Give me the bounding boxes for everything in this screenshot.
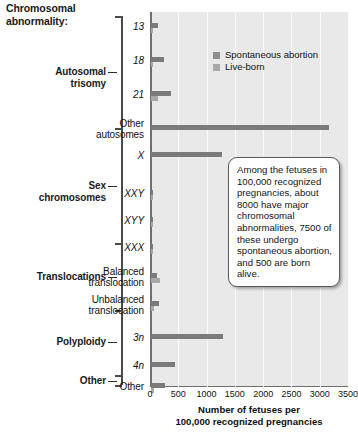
legend-item: Live-born xyxy=(213,61,318,73)
bracket-spine xyxy=(121,16,123,385)
category-label-line: Balanced xyxy=(68,266,144,277)
x-axis-line xyxy=(150,386,348,388)
bar-live-born xyxy=(151,96,158,101)
category-label: XXY xyxy=(68,188,144,199)
category-label-line: autosomes xyxy=(68,129,144,140)
bar-live-born xyxy=(151,278,160,283)
group-label-autosomal-trisomy: Autosomal trisomy xyxy=(55,66,106,90)
bar-spontaneous-abortion xyxy=(151,334,223,339)
category-label: 3n xyxy=(68,332,144,343)
group-dash-autosomal-trisomy xyxy=(108,72,117,73)
legend-label: Spontaneous abortion xyxy=(225,49,318,61)
x-axis-tick-label: 1500 xyxy=(225,389,245,399)
callout-box: Among the fetuses in 100,000 recognized … xyxy=(228,157,340,287)
bar-spontaneous-abortion xyxy=(151,152,222,157)
bar-live-born xyxy=(151,306,154,311)
category-label: 4n xyxy=(68,360,144,371)
bar-spontaneous-abortion xyxy=(151,125,329,130)
category-label: Other xyxy=(68,381,144,392)
chart-legend: Spontaneous abortionLive-born xyxy=(213,49,318,73)
gridline xyxy=(348,12,349,387)
category-label: Otherautosomes xyxy=(68,118,144,140)
bar-live-born xyxy=(151,28,153,33)
bar-live-born xyxy=(151,249,153,254)
category-label: 13 xyxy=(68,21,144,32)
bar-live-born xyxy=(151,62,153,67)
legend-item: Spontaneous abortion xyxy=(213,49,318,61)
legend-swatch-icon xyxy=(213,52,220,59)
x-axis-tick-label: 2500 xyxy=(281,389,301,399)
x-axis-tick-label: 3500 xyxy=(338,389,358,399)
category-label-line: translocation xyxy=(68,305,144,316)
bar-live-born xyxy=(151,222,153,227)
group-label-autosomal-trisomy-line1: Autosomal xyxy=(55,66,106,78)
legend-label: Live-born xyxy=(225,61,265,73)
bracket-tick-polyploidy xyxy=(115,375,122,377)
bracket-cap-top xyxy=(115,16,122,18)
bar-spontaneous-abortion xyxy=(151,57,164,62)
category-axis-labels: 131821OtherautosomesXXXYXYYXXXBalancedtr… xyxy=(126,0,148,435)
category-label: 21 xyxy=(68,89,144,100)
category-label-line: Unbalanced xyxy=(68,294,144,305)
x-axis-tick-label: 3000 xyxy=(310,389,330,399)
x-axis-tick-label: 1000 xyxy=(197,389,217,399)
category-label: XYY xyxy=(68,215,144,226)
category-label: Unbalancedtranslocation xyxy=(68,294,144,316)
category-label: XXX xyxy=(68,242,144,253)
x-axis-title-line2: 100,000 recognized pregnancies xyxy=(150,416,348,428)
category-label: Balancedtranslocation xyxy=(68,266,144,288)
x-axis-title: Number of fetuses per 100,000 recognized… xyxy=(150,404,348,428)
bar-spontaneous-abortion xyxy=(151,362,175,367)
category-label-line: Other xyxy=(68,118,144,129)
x-axis-tick-label: 0 xyxy=(147,389,152,399)
bar-live-born xyxy=(151,195,153,200)
x-axis-tick-label: 500 xyxy=(171,389,186,399)
category-label-line: translocation xyxy=(68,277,144,288)
gridline xyxy=(207,12,208,387)
x-axis-tick-label: 2000 xyxy=(253,389,273,399)
category-label: X xyxy=(68,150,144,161)
legend-swatch-icon xyxy=(213,64,220,71)
group-dash-sex-chromosomes xyxy=(108,186,117,187)
x-axis-tick-labels: 0500100015002000250030003500 xyxy=(150,389,348,401)
category-label: 18 xyxy=(68,55,144,66)
x-axis-title-line1: Number of fetuses per xyxy=(150,404,348,416)
gridline xyxy=(178,12,179,387)
